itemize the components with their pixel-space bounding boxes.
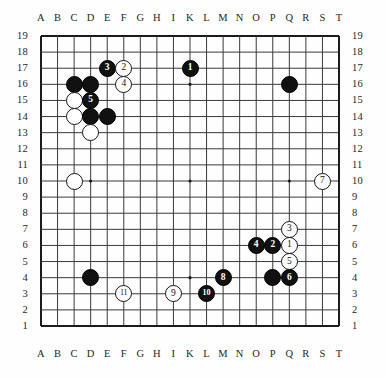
column-label-n-top: N	[232, 12, 248, 23]
column-label-b-top: B	[50, 12, 66, 23]
column-label-s-top: S	[314, 12, 330, 23]
column-label-h-top: H	[149, 12, 165, 23]
stone-black-q16[interactable]	[281, 76, 298, 93]
row-label-14-left: 14	[10, 111, 28, 122]
column-label-e-bottom: E	[99, 348, 115, 359]
stone-move-number: 9	[171, 289, 176, 299]
go-diagram-figure: ABCDEFGHIKLMNOPQRST ABCDEFGHIKLMNOPQRST …	[0, 0, 386, 377]
stone-move-number: 3	[287, 224, 292, 234]
column-label-h-bottom: H	[149, 348, 165, 359]
column-label-t-bottom: T	[331, 348, 347, 359]
stone-black-e17-move-3[interactable]: 3	[99, 60, 116, 77]
column-label-r-bottom: R	[298, 348, 314, 359]
stone-move-number: 2	[270, 240, 275, 250]
stone-move-number: 7	[320, 176, 325, 186]
row-label-11-left: 11	[10, 159, 28, 170]
row-label-16-left: 16	[10, 78, 28, 89]
stone-move-number: 4	[121, 79, 126, 89]
row-label-18-right: 18	[352, 46, 370, 57]
row-label-15-right: 15	[352, 94, 370, 105]
stone-black-m4-move-8[interactable]: 8	[215, 269, 232, 286]
column-label-k-bottom: K	[182, 348, 198, 359]
row-label-16-right: 16	[352, 78, 370, 89]
row-label-12-right: 12	[352, 143, 370, 154]
stone-move-number: 10	[203, 289, 211, 297]
row-label-3-left: 3	[10, 288, 28, 299]
stone-white-f16-move-4[interactable]: 4	[115, 76, 132, 93]
row-label-6-left: 6	[10, 239, 28, 250]
stone-white-s10-move-7[interactable]: 7	[314, 173, 331, 190]
stone-black-d16[interactable]	[82, 76, 99, 93]
row-label-8-left: 8	[10, 207, 28, 218]
row-label-9-right: 9	[352, 191, 370, 202]
column-label-b-bottom: B	[50, 348, 66, 359]
stone-white-c10[interactable]	[66, 173, 83, 190]
stone-white-c15[interactable]	[66, 92, 83, 109]
row-label-11-right: 11	[352, 159, 370, 170]
column-label-c-top: C	[66, 12, 82, 23]
stone-move-number: 1	[287, 240, 292, 250]
row-label-17-right: 17	[352, 62, 370, 73]
stone-white-q5-move-5[interactable]: 5	[281, 253, 298, 270]
column-label-q-top: Q	[281, 12, 297, 23]
row-label-13-left: 13	[10, 127, 28, 138]
go-board[interactable]: 324517342158611910	[33, 28, 347, 334]
row-label-9-left: 9	[10, 191, 28, 202]
stone-move-number: 1	[188, 63, 193, 73]
stone-move-number: 5	[88, 95, 93, 105]
column-label-f-top: F	[116, 12, 132, 23]
row-label-6-right: 6	[352, 239, 370, 250]
column-label-k-top: K	[182, 12, 198, 23]
row-label-8-right: 8	[352, 207, 370, 218]
stone-move-number: 2	[121, 63, 126, 73]
column-label-a-bottom: A	[33, 348, 49, 359]
column-label-g-top: G	[132, 12, 148, 23]
row-label-5-left: 5	[10, 256, 28, 267]
column-label-d-top: D	[83, 12, 99, 23]
column-label-n-bottom: N	[232, 348, 248, 359]
stone-black-o6-move-4[interactable]: 4	[248, 237, 265, 254]
stone-black-k17-move-1[interactable]: 1	[182, 60, 199, 77]
row-label-17-left: 17	[10, 62, 28, 73]
row-label-19-right: 19	[352, 30, 370, 41]
row-label-10-right: 10	[352, 175, 370, 186]
row-label-2-right: 2	[352, 304, 370, 315]
row-label-2-left: 2	[10, 304, 28, 315]
stone-white-q6-move-1[interactable]: 1	[281, 237, 298, 254]
stone-move-number: 4	[254, 240, 259, 250]
stone-black-q4-move-6[interactable]: 6	[281, 269, 298, 286]
stone-black-d15-move-5[interactable]: 5	[82, 92, 99, 109]
column-label-o-bottom: O	[248, 348, 264, 359]
stone-move-number: 5	[287, 257, 292, 267]
column-label-o-top: O	[248, 12, 264, 23]
column-label-l-bottom: L	[199, 348, 215, 359]
row-label-19-left: 19	[10, 30, 28, 41]
column-label-c-bottom: C	[66, 348, 82, 359]
stone-black-c16[interactable]	[66, 76, 83, 93]
stone-move-number: 3	[105, 63, 110, 73]
column-label-f-bottom: F	[116, 348, 132, 359]
column-label-a-top: A	[33, 12, 49, 23]
row-label-1-left: 1	[10, 320, 28, 331]
stone-white-q7-move-3[interactable]: 3	[281, 221, 298, 238]
row-label-7-right: 7	[352, 223, 370, 234]
stone-white-c14[interactable]	[66, 108, 83, 125]
column-label-i-top: I	[165, 12, 181, 23]
column-label-l-top: L	[199, 12, 215, 23]
column-label-m-top: M	[215, 12, 231, 23]
column-label-d-bottom: D	[83, 348, 99, 359]
column-label-e-top: E	[99, 12, 115, 23]
stone-white-f17-move-2[interactable]: 2	[115, 60, 132, 77]
row-label-15-left: 15	[10, 94, 28, 105]
stone-move-number: 8	[221, 273, 226, 283]
row-label-13-right: 13	[352, 127, 370, 138]
row-label-12-left: 12	[10, 143, 28, 154]
stone-move-number: 11	[120, 289, 128, 297]
column-label-r-top: R	[298, 12, 314, 23]
column-label-m-bottom: M	[215, 348, 231, 359]
stone-black-e14[interactable]	[99, 108, 116, 125]
column-label-s-bottom: S	[314, 348, 330, 359]
row-label-18-left: 18	[10, 46, 28, 57]
row-label-3-right: 3	[352, 288, 370, 299]
row-label-14-right: 14	[352, 111, 370, 122]
